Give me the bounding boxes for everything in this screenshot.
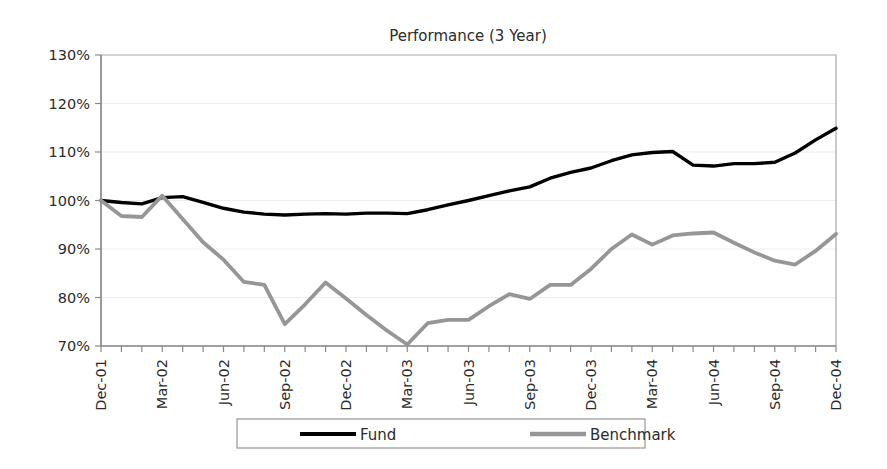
y-axis-labels: 70%80%90%100%110%120%130%	[49, 47, 90, 354]
x-axis-tick-label: Mar-04	[644, 359, 660, 409]
y-axis-tick-label: 90%	[58, 241, 90, 257]
y-axis-tick-label: 120%	[49, 96, 90, 112]
legend-label-benchmark: Benchmark	[590, 426, 676, 444]
x-axis-tick-label: Mar-03	[399, 359, 415, 409]
x-axis-tick-label: Sep-03	[522, 359, 538, 410]
x-axis-tick-label: Jun-04	[706, 359, 722, 406]
x-axis-tick-label: Jun-03	[461, 359, 477, 406]
x-axis-ticks	[101, 346, 836, 352]
y-axis-tick-label: 70%	[58, 338, 90, 354]
legend-label-fund: Fund	[360, 426, 396, 444]
y-axis-tick-label: 80%	[58, 290, 90, 306]
x-axis-tick-label: Jun-02	[216, 359, 232, 406]
x-axis-tick-label: Sep-04	[767, 359, 783, 410]
x-axis-tick-label: Dec-04	[828, 359, 844, 411]
performance-line-chart: 70%80%90%100%110%120%130% Dec-01Mar-02Ju…	[0, 0, 887, 469]
y-axis-tick-label: 130%	[49, 47, 90, 63]
x-axis-tick-label: Dec-01	[93, 359, 109, 411]
x-axis-tick-label: Dec-02	[338, 359, 354, 411]
chart-screenshot: 70%80%90%100%110%120%130% Dec-01Mar-02Ju…	[0, 0, 887, 469]
chart-title: Performance (3 Year)	[389, 27, 547, 45]
x-axis-tick-label: Sep-02	[277, 359, 293, 410]
x-axis-tick-label: Dec-03	[583, 359, 599, 411]
chart-legend: FundBenchmark	[237, 419, 676, 448]
x-axis-labels: Dec-01Mar-02Jun-02Sep-02Dec-02Mar-03Jun-…	[93, 359, 844, 411]
y-axis-tick-label: 100%	[49, 193, 90, 209]
x-axis-tick-label: Mar-02	[154, 359, 170, 409]
y-axis-tick-label: 110%	[49, 144, 90, 160]
